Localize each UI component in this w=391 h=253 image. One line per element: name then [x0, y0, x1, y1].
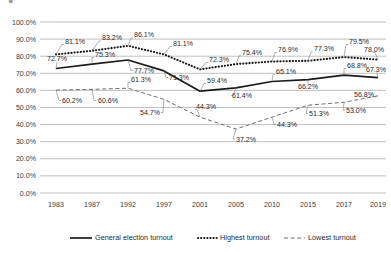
data-label-highest-2015: 77.3% [314, 45, 335, 53]
data-label-general-2015: 66.2% [298, 83, 319, 91]
data-label-highest-1987: 83.2% [102, 34, 123, 42]
x-tick-2015: 2015 [300, 201, 316, 209]
leader-highest-6 [272, 53, 277, 62]
y-tick-40: 40.0% [16, 121, 37, 129]
data-label-highest-2001: 72.3% [209, 56, 230, 64]
turnout-line-chart: ● 100.0% 90.0% 80.0% 70.0% 60.0% 50.0% 4… [0, 0, 391, 253]
leader-lowest-1 [92, 89, 96, 100]
leader-highest-3 [164, 47, 172, 55]
leader-highest-8 [344, 45, 348, 58]
data-label-highest-1983: 81.1% [65, 38, 86, 46]
legend-label-general: General election turnout [95, 233, 173, 242]
data-label-lowest-1997: 54.7% [140, 109, 161, 117]
leader-lowest-0 [56, 90, 61, 100]
leader-general-6 [272, 75, 275, 82]
data-label-lowest-1992: 61.3% [131, 76, 152, 84]
data-label-highest-1992: 86.1% [134, 31, 155, 39]
y-tick-50: 50.0% [16, 104, 37, 112]
data-label-lowest-2010: 44.3% [277, 121, 298, 129]
data-label-general-2010: 65.1% [276, 68, 297, 76]
data-label-lowest-2005: 37.2% [236, 136, 257, 144]
leader-lowest-7 [306, 105, 308, 113]
x-tick-2001: 2001 [192, 201, 208, 209]
x-tick-1992: 1992 [120, 201, 136, 209]
y-tick-0: 0.0% [20, 190, 37, 198]
y-tick-90: 90.0% [16, 36, 37, 44]
data-label-lowest-1987: 60.6% [98, 97, 119, 105]
data-label-lowest-2019: 56.8% [354, 91, 375, 99]
clipped-top-glyph: ● [8, 0, 18, 6]
y-tick-80: 80.0% [16, 53, 37, 61]
data-label-general-2019: 67.3% [366, 66, 387, 74]
data-label-highest-2019: 78.0% [364, 46, 385, 54]
y-tick-60: 60.0% [16, 87, 37, 95]
leader-lowest-8 [343, 102, 345, 110]
x-tick-1987: 1987 [84, 201, 100, 209]
data-label-highest-2010: 76.9% [278, 46, 299, 54]
y-tick-10: 10.0% [16, 172, 37, 180]
data-labels-lowest: 60.2% 60.6% 61.3% 54.7% 44.3% 37.2% 44.3… [62, 76, 375, 144]
data-label-highest-2005: 75.4% [242, 49, 263, 57]
leader-lowest-6 [272, 117, 276, 124]
x-tick-2017: 2017 [336, 201, 352, 209]
x-tick-2005: 2005 [228, 201, 244, 209]
data-label-highest-2017: 79.5% [349, 38, 370, 46]
chart-legend: General election turnout Highest turnout… [70, 233, 356, 242]
leader-lowest-2 [128, 83, 130, 89]
legend-label-lowest: Lowest turnout [308, 233, 356, 242]
chart-svg: 100.0% 90.0% 80.0% 70.0% 60.0% 50.0% 40.… [0, 0, 391, 253]
legend-item-lowest-turnout[interactable]: Lowest turnout [284, 233, 356, 242]
x-axis-ticks: 1983 1987 1992 1997 2001 2005 2010 2015 … [48, 201, 386, 209]
legend-label-highest: Highest turnout [220, 233, 270, 242]
y-tick-30: 30.0% [16, 138, 37, 146]
y-axis-ticks: 100.0% 90.0% 80.0% 70.0% 60.0% 50.0% 40.… [12, 19, 37, 198]
leader-lowest-3 [161, 99, 164, 112]
data-label-highest-1997: 81.1% [173, 40, 194, 48]
legend-item-general-election-turnout[interactable]: General election turnout [70, 233, 173, 242]
series-lowest-turnout [56, 88, 378, 129]
data-label-general-2001: 59.4% [207, 77, 228, 85]
y-tick-70: 70.0% [16, 70, 37, 78]
data-label-general-1983: 72.7% [47, 55, 68, 63]
data-label-lowest-1983: 60.2% [62, 97, 83, 105]
y-tick-100: 100.0% [12, 19, 37, 27]
data-label-lowest-2001: 44.3% [196, 103, 217, 111]
x-tick-1983: 1983 [48, 201, 64, 209]
x-tick-2010: 2010 [264, 201, 280, 209]
legend-item-highest-turnout[interactable]: Highest turnout [198, 233, 270, 242]
y-tick-20: 20.0% [16, 155, 37, 163]
data-label-general-1992: 77.7% [134, 67, 155, 75]
data-label-general-1997: 71.3% [169, 74, 190, 82]
data-label-general-1987: 75.3% [95, 51, 116, 59]
x-tick-2019: 2019 [370, 201, 386, 209]
x-tick-1997: 1997 [156, 201, 172, 209]
data-label-lowest-2015: 51.3% [309, 110, 330, 118]
data-label-general-2005: 61.4% [232, 92, 253, 100]
data-label-lowest-2017: 53.0% [346, 107, 367, 115]
data-label-general-2017: 68.8% [347, 62, 368, 70]
leader-general-8 [344, 69, 346, 76]
